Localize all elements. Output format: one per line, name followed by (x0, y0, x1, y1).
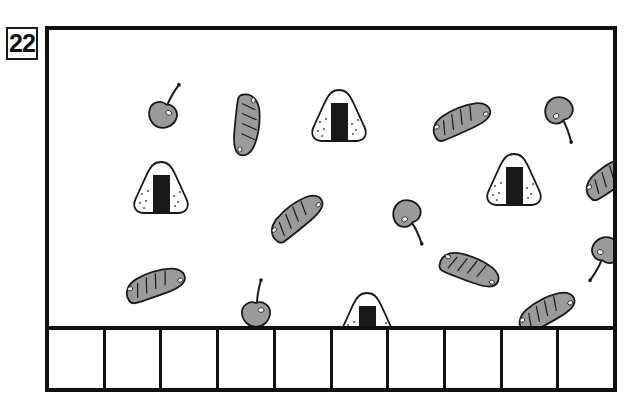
answer-cell-9[interactable] (503, 330, 560, 388)
onigiri-sesame-dot (353, 321, 355, 323)
onigiri-sesame-dot (325, 118, 327, 120)
page-number-badge: 22 (6, 27, 38, 60)
onigiri-sesame-dot (492, 194, 494, 196)
onigiri-sesame-dot (532, 183, 534, 185)
onigiri-sesame-dot (355, 129, 357, 131)
answer-row (49, 326, 613, 388)
onigiri-sesame-dot (317, 130, 319, 132)
food-item-cherry-5[interactable] (540, 92, 589, 148)
cherry-stem-tip (419, 241, 424, 246)
onigiri-nori-strip (153, 175, 170, 213)
onigiri-sesame-dot (141, 193, 143, 195)
food-item-cherry-1[interactable] (145, 76, 188, 131)
cherry-stem-tip (259, 278, 263, 282)
food-item-onigiri-7[interactable] (487, 154, 541, 205)
cherry-body (387, 194, 424, 230)
sausage-highlight (238, 147, 242, 153)
onigiri-sesame-dot (319, 121, 321, 123)
food-item-onigiri-3[interactable] (312, 90, 366, 141)
sausage-highlight (251, 98, 255, 104)
onigiri-nori-strip (506, 167, 523, 205)
answer-cell-4[interactable] (219, 330, 276, 388)
food-item-sausage-13[interactable] (122, 262, 188, 305)
picture-frame (45, 26, 617, 392)
page-number-label: 22 (9, 31, 35, 56)
food-item-onigiri-15[interactable] (340, 293, 394, 330)
onigiri-sesame-dot (526, 187, 528, 189)
onigiri-sesame-dot (143, 207, 145, 209)
onigiri-sesame-dot (357, 119, 359, 121)
cherry-body (242, 302, 270, 327)
items-canvas (49, 30, 613, 330)
onigiri-sesame-dot (173, 195, 175, 197)
onigiri-sesame-dot (145, 200, 147, 202)
cherry-body (145, 99, 180, 132)
cherry-stem (590, 258, 602, 282)
answer-cell-1[interactable] (49, 330, 106, 388)
cherry-stem (257, 280, 261, 304)
sausage-body (580, 149, 613, 204)
onigiri-sesame-dot (174, 205, 176, 207)
answer-cell-10[interactable] (559, 330, 613, 388)
food-item-sausage-12[interactable] (437, 247, 503, 290)
onigiri-sesame-dot (498, 192, 500, 194)
onigiri-sesame-dot (385, 322, 387, 324)
onigiri-sesame-dot (527, 197, 529, 199)
food-item-cherry-11[interactable] (581, 233, 613, 288)
onigiri-sesame-dot (496, 199, 498, 201)
food-item-cherry-10[interactable] (387, 194, 438, 250)
food-item-sausage-8[interactable] (580, 149, 613, 204)
onigiri-sesame-dot (500, 182, 502, 184)
cherry-stem-tip (569, 140, 574, 145)
cherry-stem (167, 83, 179, 107)
items-svg (49, 30, 613, 330)
onigiri-sesame-dot (323, 128, 325, 130)
answer-cell-7[interactable] (389, 330, 446, 388)
cherry-body (540, 92, 577, 128)
onigiri-sesame-dot (351, 123, 353, 125)
answer-cell-8[interactable] (446, 330, 503, 388)
food-item-onigiri-6[interactable] (134, 162, 188, 213)
food-item-sausage-16[interactable] (514, 285, 579, 330)
onigiri-sesame-dot (177, 201, 179, 203)
onigiri-nori-strip (331, 103, 348, 141)
cherry-highlight (258, 308, 264, 313)
onigiri-sesame-dot (139, 202, 141, 204)
food-item-cherry-14[interactable] (242, 278, 270, 327)
answer-cell-3[interactable] (162, 330, 219, 388)
onigiri-sesame-dot (530, 193, 532, 195)
onigiri-sesame-dot (321, 135, 323, 137)
onigiri-sesame-dot (179, 191, 181, 193)
answer-cell-6[interactable] (333, 330, 390, 388)
food-item-sausage-9[interactable] (265, 188, 327, 246)
answer-cell-2[interactable] (106, 330, 163, 388)
food-item-sausage-2[interactable] (232, 94, 261, 157)
onigiri-sesame-dot (494, 185, 496, 187)
answer-cell-5[interactable] (276, 330, 333, 388)
onigiri-sesame-dot (147, 190, 149, 192)
food-item-sausage-4[interactable] (428, 96, 493, 144)
onigiri-sesame-dot (352, 133, 354, 135)
